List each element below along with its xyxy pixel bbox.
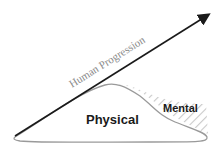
physical-label: Physical [86, 112, 139, 127]
progression-diagram: Human Progression Physical Mental [0, 0, 223, 152]
mental-label: Mental [163, 102, 198, 114]
